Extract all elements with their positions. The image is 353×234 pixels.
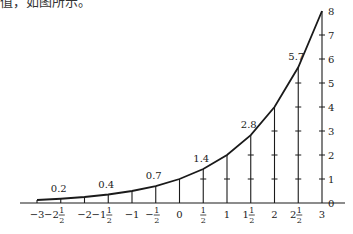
x-tick-label: −212 [44,206,65,225]
svg-text:1: 1 [201,206,206,215]
svg-text:1: 1 [242,209,248,220]
value-annotation: 0.7 [146,170,162,181]
y-tick-label: 0 [328,198,334,209]
y-tick-label: 6 [328,54,334,65]
x-tick-label: −112 [92,206,113,225]
svg-text:2: 2 [201,216,206,225]
y-tick-label: 3 [328,126,334,137]
x-tick-label: −1 [125,209,140,220]
svg-text:2: 2 [297,216,302,225]
value-annotation: 1.4 [193,153,209,164]
x-tick-label: 112 [242,206,254,225]
y-tick-label: 1 [328,174,334,185]
x-tick-label: −2 [77,209,92,220]
x-tick-label: 1 [224,209,230,220]
x-tick-label: 12 [200,206,206,225]
x-tick-label: −3 [30,209,45,220]
x-tick-label: 212 [290,206,302,225]
value-annotation: 0.2 [51,183,67,194]
value-annotation: 0.4 [98,179,114,190]
value-annotation: 5.7 [288,51,304,62]
svg-text:1: 1 [107,206,112,215]
exponential-chart: 012345678−3−212−2−112−1−120121112221230.… [0,0,353,234]
y-tick-label: 5 [328,78,334,89]
svg-text:−2: −2 [44,209,59,220]
svg-text:−1: −1 [92,209,107,220]
svg-text:2: 2 [59,216,64,225]
x-tick-label: 0 [176,209,182,220]
y-tick-label: 7 [328,30,334,41]
x-tick-label: 2 [271,209,277,220]
svg-text:−: − [145,209,153,220]
svg-text:2: 2 [249,216,254,225]
exponential-curve [37,11,322,200]
svg-text:2: 2 [107,216,112,225]
svg-text:1: 1 [249,206,254,215]
x-tick-label: −12 [145,206,159,225]
svg-text:1: 1 [297,206,302,215]
svg-text:2: 2 [290,209,296,220]
value-annotation: 2.8 [241,119,257,130]
svg-text:1: 1 [154,206,159,215]
y-tick-label: 2 [328,150,334,161]
svg-text:2: 2 [154,216,159,225]
svg-text:1: 1 [59,206,64,215]
y-tick-label: 4 [328,102,334,113]
x-tick-label: 3 [319,209,325,220]
y-tick-label: 8 [328,6,334,17]
